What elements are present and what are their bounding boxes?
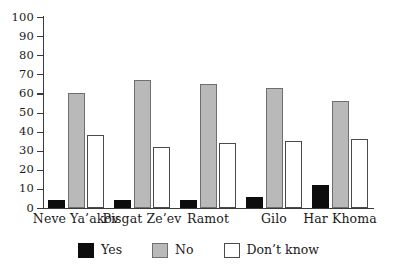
bar-dk <box>153 147 170 208</box>
chart-legend: YesNoDon’t know <box>0 243 397 258</box>
bar-group: Har Khoma <box>307 17 373 208</box>
bar-group-bars <box>241 17 307 208</box>
legend-item-label: Don’t know <box>247 244 319 257</box>
x-axis-category-label: Ramot <box>187 211 229 226</box>
black-filled-square-icon <box>78 243 94 258</box>
y-axis-tick-label: 80 <box>19 50 34 62</box>
bar-yes <box>48 200 65 208</box>
bar-dk <box>351 139 368 208</box>
x-axis-category-label: Pisgat Ze’ev <box>103 211 182 226</box>
plot-area: Neve Ya’akovPisgat Ze’evRamotGiloHar Kho… <box>43 17 373 208</box>
y-axis-tick-label: 50 <box>19 107 34 119</box>
bar-group: Neve Ya’akov <box>43 17 109 208</box>
bar-dk <box>285 141 302 208</box>
bar-chart: 0102030405060708090100 Neve Ya’akovPisga… <box>0 0 397 280</box>
bar-no <box>68 93 85 208</box>
legend-item: Don’t know <box>224 243 319 258</box>
bar-dk <box>219 143 236 208</box>
y-axis-tick-label: 30 <box>19 145 34 157</box>
bar-yes <box>114 200 131 208</box>
y-axis-tick-label: 60 <box>19 88 34 100</box>
legend-item: Yes <box>78 243 122 258</box>
bar-group: Gilo <box>241 17 307 208</box>
x-axis-category-label: Har Khoma <box>303 211 376 226</box>
bar-no <box>266 88 283 208</box>
y-axis-tick-label: 20 <box>19 164 34 176</box>
legend-item-label: No <box>175 244 193 257</box>
bar-group-bars <box>307 17 373 208</box>
bar-group: Pisgat Ze’ev <box>109 17 175 208</box>
bar-group-bars <box>175 17 241 208</box>
bar-no <box>200 84 217 208</box>
bar-group-bars <box>43 17 109 208</box>
bar-no <box>332 101 349 208</box>
y-axis-tick-label: 90 <box>19 31 34 43</box>
y-axis-tick: 0 <box>37 208 43 209</box>
x-axis-category-label: Gilo <box>261 211 287 226</box>
y-axis-tick-label: 100 <box>11 12 34 24</box>
bar-yes <box>180 200 197 208</box>
bar-no <box>134 80 151 208</box>
bar-group: Ramot <box>175 17 241 208</box>
legend-item-label: Yes <box>101 244 122 257</box>
bar-yes <box>312 185 329 208</box>
legend-item: No <box>152 243 193 258</box>
gray-hatched-square-icon <box>152 243 168 258</box>
bar-yes <box>246 197 263 208</box>
white-outlined-square-icon <box>224 243 240 258</box>
bar-dk <box>87 135 104 208</box>
y-axis-tick-label: 10 <box>19 184 34 196</box>
bar-group-bars <box>109 17 175 208</box>
y-axis-tick-label: 70 <box>19 69 34 81</box>
y-axis-tick-label: 40 <box>19 126 34 138</box>
